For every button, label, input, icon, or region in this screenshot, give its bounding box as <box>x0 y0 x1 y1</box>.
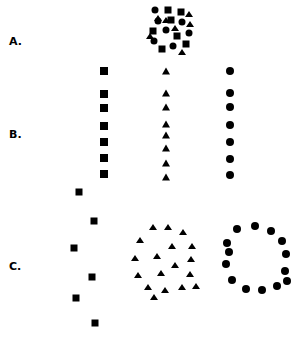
circle-marker <box>223 239 231 247</box>
circle-marker <box>283 277 291 285</box>
circle-marker <box>228 276 236 284</box>
circle-marker <box>267 227 275 235</box>
circle-marker <box>222 260 230 268</box>
circle-marker <box>233 225 241 233</box>
circle-marker <box>281 267 289 275</box>
figure-canvas: A.B.C. <box>0 0 305 344</box>
circle-marker <box>273 282 281 290</box>
markers-layer <box>0 0 305 344</box>
circle-marker <box>278 237 286 245</box>
circle-marker <box>251 222 259 230</box>
circle-marker <box>282 250 290 258</box>
panel-c-ring-and-zigzag-circles-ring <box>0 0 305 344</box>
circle-marker <box>242 285 250 293</box>
panel-c-ring-and-zigzag <box>0 0 305 344</box>
circle-marker <box>258 286 266 294</box>
circle-marker <box>225 248 233 256</box>
